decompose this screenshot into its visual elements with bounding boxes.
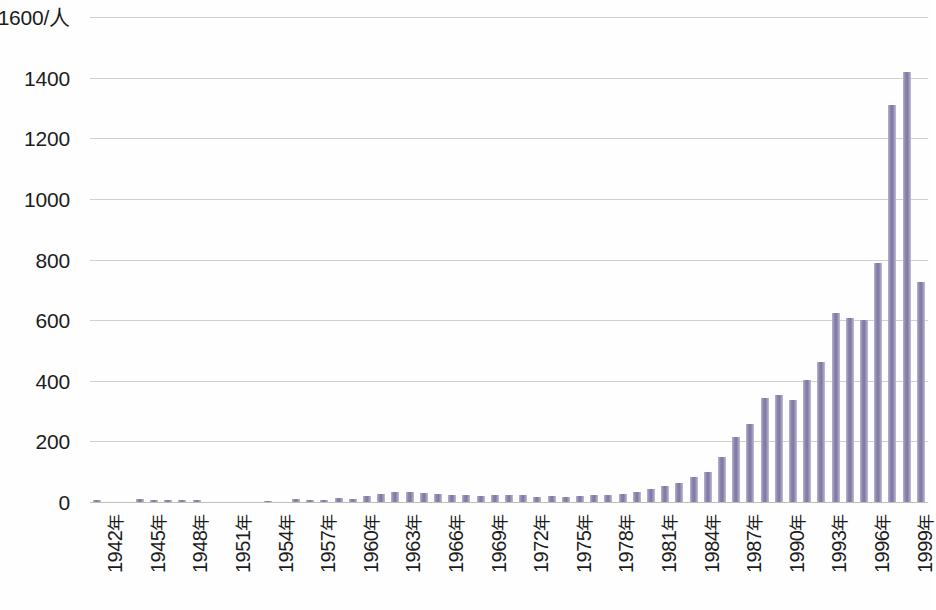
bar bbox=[761, 398, 769, 502]
bar bbox=[633, 492, 641, 502]
y-axis-tick-label: 800 bbox=[36, 249, 70, 270]
bar bbox=[775, 395, 783, 502]
bar bbox=[661, 486, 669, 502]
bar bbox=[193, 500, 201, 502]
bar bbox=[732, 437, 740, 502]
bar bbox=[448, 495, 456, 502]
x-axis-tick-label: 1963年 bbox=[403, 514, 423, 573]
bar bbox=[292, 499, 300, 502]
bar bbox=[604, 495, 612, 502]
bar bbox=[434, 494, 442, 502]
x-axis-tick-label: 1945年 bbox=[148, 514, 168, 573]
y-axis-tick-label: 1200 bbox=[24, 128, 70, 149]
y-axis-tick-label: 600 bbox=[36, 310, 70, 331]
bar bbox=[576, 496, 584, 502]
bar bbox=[590, 495, 598, 502]
bar bbox=[803, 380, 811, 502]
bar bbox=[917, 282, 925, 502]
bar bbox=[519, 495, 527, 502]
bar bbox=[136, 499, 144, 502]
x-axis-tick-label: 1990年 bbox=[787, 514, 807, 573]
bar bbox=[690, 477, 698, 502]
x-axis-tick-label: 1993年 bbox=[829, 514, 849, 573]
bar bbox=[533, 497, 541, 502]
bar bbox=[377, 494, 385, 502]
y-axis-tick-label: 1600/人 bbox=[0, 7, 70, 28]
x-axis: 1942年1945年1948年1951年1954年1957年1960年1963年… bbox=[90, 508, 928, 608]
bar bbox=[718, 457, 726, 502]
bar bbox=[391, 492, 399, 502]
bar bbox=[746, 424, 754, 502]
plot-area bbox=[90, 17, 928, 502]
x-axis-tick-label: 1996年 bbox=[872, 514, 892, 573]
bar bbox=[320, 500, 328, 502]
x-axis-tick-label: 1984年 bbox=[702, 514, 722, 573]
x-axis-tick-label: 1954年 bbox=[276, 514, 296, 573]
x-axis-tick-label: 1987年 bbox=[744, 514, 764, 573]
bar bbox=[903, 72, 911, 502]
bar bbox=[477, 496, 485, 502]
x-axis-tick-label: 1942年 bbox=[105, 514, 125, 573]
bar bbox=[306, 500, 314, 502]
bar bbox=[505, 495, 513, 502]
bar bbox=[704, 472, 712, 502]
bar bbox=[888, 105, 896, 502]
bar bbox=[562, 497, 570, 502]
bar bbox=[675, 483, 683, 502]
bar bbox=[860, 320, 868, 502]
bar bbox=[846, 318, 854, 502]
bar bbox=[178, 500, 186, 502]
bar bbox=[789, 400, 797, 502]
y-axis-tick-label: 1000 bbox=[24, 188, 70, 209]
bar bbox=[548, 496, 556, 502]
bar bbox=[335, 498, 343, 502]
y-axis: 02004006008001000120014001600/人 bbox=[0, 0, 74, 510]
bar bbox=[93, 500, 101, 502]
x-axis-tick-label: 1981年 bbox=[659, 514, 679, 573]
y-axis-tick-label: 200 bbox=[36, 431, 70, 452]
bar bbox=[462, 495, 470, 502]
y-axis-tick-label: 400 bbox=[36, 370, 70, 391]
x-axis-tick-label: 1978年 bbox=[616, 514, 636, 573]
x-axis-tick-label: 1957年 bbox=[318, 514, 338, 573]
bar bbox=[420, 493, 428, 502]
x-axis-tick-label: 1999年 bbox=[915, 514, 935, 573]
bar bbox=[349, 499, 357, 502]
bar bbox=[491, 495, 499, 502]
bar bbox=[363, 496, 371, 502]
x-axis-tick-label: 1969年 bbox=[489, 514, 509, 573]
bar bbox=[406, 492, 414, 502]
bar bbox=[619, 494, 627, 502]
x-axis-tick-label: 1948年 bbox=[190, 514, 210, 573]
x-axis-tick-label: 1951年 bbox=[233, 514, 253, 573]
bar bbox=[264, 501, 272, 503]
y-axis-tick-label: 0 bbox=[59, 492, 70, 513]
bar bbox=[150, 500, 158, 502]
bar bbox=[817, 362, 825, 502]
x-axis-tick-label: 1966年 bbox=[446, 514, 466, 573]
bar bbox=[647, 489, 655, 502]
gridline bbox=[90, 502, 928, 503]
bar bbox=[164, 500, 172, 502]
bars-container bbox=[90, 17, 928, 502]
y-axis-tick-label: 1400 bbox=[24, 67, 70, 88]
x-axis-tick-label: 1975年 bbox=[574, 514, 594, 573]
bar bbox=[874, 263, 882, 502]
bar bbox=[832, 313, 840, 502]
x-axis-tick-label: 1960年 bbox=[361, 514, 381, 573]
x-axis-tick-label: 1972年 bbox=[531, 514, 551, 573]
